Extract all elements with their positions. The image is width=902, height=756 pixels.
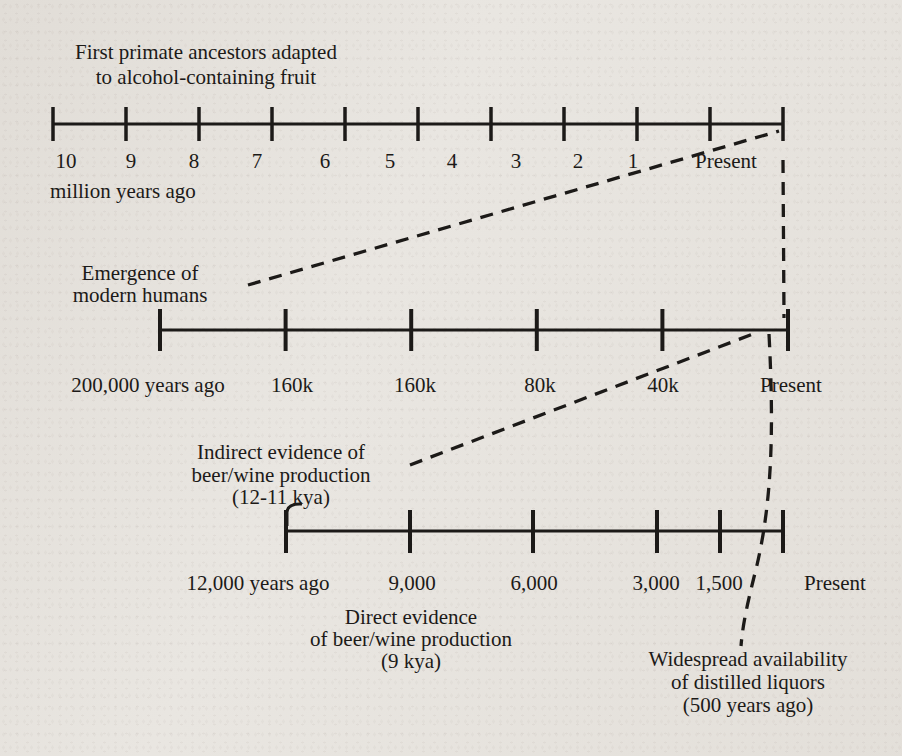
annotation-primate-ancestors: First primate ancestors adapted to alcoh… xyxy=(75,40,337,90)
annotation-direct-evidence: Direct evidence of beer/wine production … xyxy=(310,606,512,672)
tick-label: 12,000 years ago xyxy=(187,571,330,596)
annotation-line: (12-11 kya) xyxy=(191,486,370,509)
tick-label: 3,000 xyxy=(632,571,679,596)
annotation-line: Emergence of xyxy=(73,262,208,284)
tick-label: Present xyxy=(804,571,866,596)
tick-label: Present xyxy=(760,373,822,398)
tick-label: 160k xyxy=(394,373,436,398)
annotation-line: to alcohol-containing fruit xyxy=(75,65,337,90)
tick-label: 80k xyxy=(524,373,556,398)
annotation-line: of beer/wine production xyxy=(310,628,512,650)
tick-label: Present xyxy=(695,149,757,174)
axis-unit-caption: million years ago xyxy=(50,179,196,204)
tick-label: 7 xyxy=(252,149,263,174)
annotation-line: beer/wine production xyxy=(191,464,370,487)
annotation-line: (9 kya) xyxy=(310,650,512,672)
annotation-modern-humans: Emergence of modern humans xyxy=(73,262,208,306)
tick-label: 10 xyxy=(56,149,77,174)
tick-label: 2 xyxy=(573,149,584,174)
tick-label: 9,000 xyxy=(388,571,435,596)
tick-label: 1,500 xyxy=(695,571,742,596)
tick-label: 5 xyxy=(385,149,396,174)
annotation-line: First primate ancestors adapted xyxy=(75,40,337,65)
annotation-line: Widespread availability xyxy=(648,648,847,671)
tick-label: 9 xyxy=(126,149,137,174)
zoom-connector-left-lower xyxy=(410,334,753,465)
tick-label: 8 xyxy=(189,149,200,174)
tick-label: 1 xyxy=(628,149,639,174)
tick-label: 3 xyxy=(511,149,522,174)
tick-label: 6,000 xyxy=(510,571,557,596)
annotation-distilled-liquors: Widespread availability of distilled liq… xyxy=(648,648,847,717)
annotation-line: modern humans xyxy=(73,284,208,306)
annotation-line: of distilled liquors xyxy=(648,671,847,694)
tick-label: 160k xyxy=(271,373,313,398)
annotation-indirect-evidence: Indirect evidence of beer/wine productio… xyxy=(191,441,370,509)
timeline-figure: First primate ancestors adapted to alcoh… xyxy=(0,0,902,756)
tick-label: 40k xyxy=(647,373,679,398)
annotation-line: (500 years ago) xyxy=(648,694,847,717)
zoom-connector-right-upper xyxy=(783,160,784,318)
tick-label: 200,000 years ago xyxy=(71,373,224,398)
tick-label: 6 xyxy=(320,149,331,174)
annotation-line: Direct evidence xyxy=(310,606,512,628)
annotation-line: Indirect evidence of xyxy=(191,441,370,464)
tick-label: 4 xyxy=(447,149,458,174)
